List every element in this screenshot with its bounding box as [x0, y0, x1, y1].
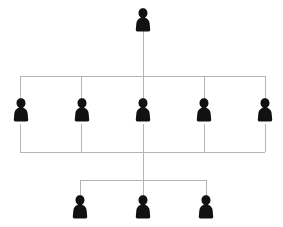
node-top-1[interactable]: [135, 7, 151, 33]
person-silhouette-icon: [257, 97, 273, 123]
node-mid-5[interactable]: [257, 97, 273, 123]
connector-drop-mid-1: [20, 76, 21, 99]
person-silhouette-icon: [135, 7, 151, 33]
node-bot-1[interactable]: [72, 194, 88, 220]
person-silhouette-icon: [74, 97, 90, 123]
connector-drop-mid-5: [265, 76, 266, 99]
connector-trunk-top: [143, 30, 144, 76]
connector-drop-mid-2: [81, 76, 82, 99]
connector-riser-mid-3: [143, 124, 144, 152]
connector-trunk-bottom: [143, 152, 144, 180]
node-mid-2[interactable]: [74, 97, 90, 123]
person-silhouette-icon: [196, 97, 212, 123]
person-silhouette-icon: [135, 97, 151, 123]
connector-riser-mid-2: [81, 124, 82, 152]
connector-drop-mid-4: [204, 76, 205, 99]
connector-drop-mid-3: [143, 76, 144, 99]
node-bot-3[interactable]: [198, 194, 214, 220]
node-mid-4[interactable]: [196, 97, 212, 123]
org-chart-diagram: [0, 0, 283, 227]
node-mid-1[interactable]: [13, 97, 29, 123]
person-silhouette-icon: [72, 194, 88, 220]
person-silhouette-icon: [13, 97, 29, 123]
person-silhouette-icon: [135, 194, 151, 220]
connector-riser-mid-4: [204, 124, 205, 152]
connector-riser-mid-5: [265, 124, 266, 152]
node-bot-2[interactable]: [135, 194, 151, 220]
node-mid-3[interactable]: [135, 97, 151, 123]
person-silhouette-icon: [198, 194, 214, 220]
connector-riser-mid-1: [20, 124, 21, 152]
